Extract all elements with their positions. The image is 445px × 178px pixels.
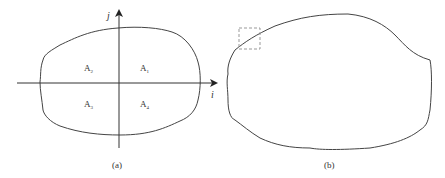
quadrant-label-a2: A2 bbox=[84, 63, 94, 74]
figure: j i A1 A2 A3 A4 (a) (b) bbox=[0, 0, 445, 178]
quadrant-label-a4: A4 bbox=[140, 99, 150, 110]
caption-a: (a) bbox=[112, 160, 122, 170]
y-axis-label: j bbox=[105, 10, 110, 21]
blob-outline-b bbox=[227, 14, 431, 150]
blob-outline-a bbox=[40, 27, 200, 135]
panel-a: j i A1 A2 A3 A4 (a) bbox=[17, 10, 216, 170]
quadrant-label-a3: A3 bbox=[84, 99, 94, 110]
x-axis-label: i bbox=[211, 89, 214, 100]
highlight-dashed-box bbox=[239, 28, 260, 49]
panel-b: (b) bbox=[227, 14, 431, 170]
caption-b: (b) bbox=[324, 160, 335, 170]
quadrant-label-a1: A1 bbox=[140, 63, 150, 74]
